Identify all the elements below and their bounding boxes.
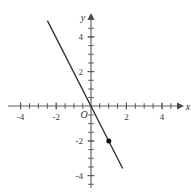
data-point-marker — [106, 139, 111, 144]
y-axis-arrow-icon — [87, 13, 94, 20]
y-tick-label-neg2: -2 — [76, 136, 84, 146]
origin-label: O — [80, 109, 87, 120]
x-tick-label-pos2: 2 — [124, 112, 129, 122]
y-axis-label: y — [80, 12, 86, 23]
data-line-series-0 — [47, 21, 122, 169]
x-axis-label: x — [185, 101, 191, 112]
x-axis-arrow-icon — [177, 102, 184, 109]
coordinate-plane-figure: -4 -2 2 4 4 2 -2 -4 O x y — [0, 0, 191, 196]
x-tick-label-neg2: -2 — [52, 112, 60, 122]
plot-svg: -4 -2 2 4 4 2 -2 -4 O x y — [0, 0, 191, 196]
y-tick-label-neg4: -4 — [76, 171, 84, 181]
x-tick-label-neg4: -4 — [17, 112, 25, 122]
y-tick-label-pos2: 2 — [79, 67, 84, 77]
x-tick-label-pos4: 4 — [160, 112, 165, 122]
y-tick-label-pos4: 4 — [79, 32, 84, 42]
